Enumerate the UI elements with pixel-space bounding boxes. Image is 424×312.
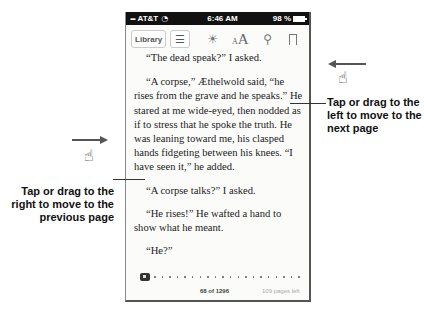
search-icon: ⚲ [263,32,272,46]
bookmark-icon [289,34,297,45]
search-button[interactable]: ⚲ [257,32,279,46]
pages-left: 109 pages left [262,288,300,294]
left-arrow-icon [328,60,336,68]
status-bar: ▪▪▪▪ AT&T ◔ 6:46 AM 98 % [126,12,309,25]
right-arrow-icon [100,136,108,144]
table-of-contents-button[interactable]: ☰ [170,30,190,48]
scrubber-thumb[interactable] [140,273,150,281]
reader-toolbar: Library ☰ ☀ AA ⚲ [126,25,309,53]
page-number: 68 of 1296 [200,288,229,294]
paragraph: “He rises!” He wafted a hand to show wha… [134,207,306,235]
list-icon: ☰ [175,33,185,46]
book-page[interactable]: “The dead speak?” I asked. “A corpse,” Æ… [134,51,306,267]
scrubber-track[interactable] [154,276,300,278]
ibooks-screen: ▪▪▪▪ AT&T ◔ 6:46 AM 98 % Library ☰ ☀ AA … [125,12,311,302]
font-large-icon: A [238,31,249,47]
library-button[interactable]: Library [131,30,166,48]
clock: 6:46 AM [190,14,255,23]
carrier-label: AT&T [138,14,159,23]
previous-page-callout: Tap or drag to the right to move to the … [4,185,114,224]
paragraph: “A corpse,” Æthelwold said, “he rises fr… [134,75,306,174]
right-arrow-line [72,139,100,141]
battery-percent: 98 % [273,14,291,23]
paragraph: “A corpse talks?” I asked. [134,184,306,198]
paragraph: “The dead speak?” I asked. [134,51,306,65]
signal-icon: ▪▪▪▪ [130,16,135,22]
brightness-button[interactable]: ☀ [202,32,224,46]
next-page-callout: Tap or drag to the left to move to the n… [327,96,424,135]
callout-leader-left [113,179,145,180]
wifi-icon: ◔ [161,14,168,23]
font-size-button[interactable]: AA [227,30,252,48]
battery-group: 98 % [255,14,305,23]
bookmark-button[interactable] [282,32,304,46]
tap-hand-icon: ☝ [84,146,94,165]
carrier-group: ▪▪▪▪ AT&T ◔ [130,14,190,23]
tap-hand-icon: ☝ [338,68,348,87]
sun-icon: ☀ [207,32,218,46]
battery-icon [293,16,305,22]
page-scrubber[interactable] [140,272,300,282]
callout-leader-right [290,103,326,104]
left-arrow-line [336,63,366,65]
paragraph: “He?” [134,244,306,258]
